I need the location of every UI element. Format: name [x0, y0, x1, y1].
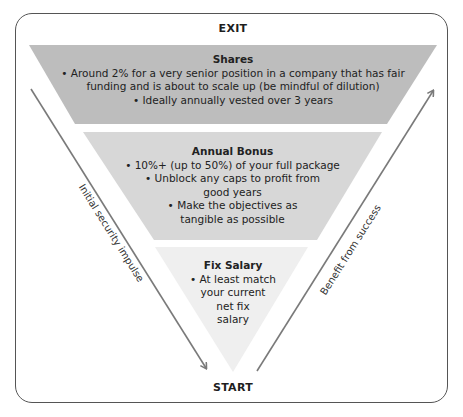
layer-annual-bonus-bullet: • 10%+ (up to 50%) of your full package: [83, 159, 382, 173]
layer-annual-bonus-bullet: good years: [83, 186, 382, 200]
layer-shares-text: Shares • Around 2% for a very senior pos…: [29, 53, 437, 107]
layer-fix-salary-text: Fix Salary • At least match your current…: [183, 259, 283, 327]
layer-annual-bonus-text: Annual Bonus • 10%+ (up to 50%) of your …: [83, 145, 382, 227]
layer-fix-salary-bullet: salary: [183, 313, 283, 327]
layer-fix-salary-bullet: net fix: [183, 300, 283, 314]
layer-fix-salary-bullet: your current: [183, 286, 283, 300]
exit-label: EXIT: [183, 22, 283, 35]
layer-annual-bonus-bullet: • Unblock any caps to profit from: [83, 172, 382, 186]
layer-shares-bullet: • Around 2% for a very senior position i…: [29, 67, 437, 81]
layer-shares-bullet: funding and is about to scale up (be min…: [29, 80, 437, 94]
layer-annual-bonus-bullet: tangible as possible: [83, 213, 382, 227]
layer-fix-salary-bullet: • At least match: [183, 273, 283, 287]
layer-shares-bullet: • Ideally annually vested over 3 years: [29, 94, 437, 108]
layer-shares-title: Shares: [29, 53, 437, 67]
layer-fix-salary-title: Fix Salary: [183, 259, 283, 273]
layer-annual-bonus-bullet: • Make the objectives as: [83, 199, 382, 213]
layer-annual-bonus-title: Annual Bonus: [83, 145, 382, 159]
start-label: START: [183, 381, 283, 394]
